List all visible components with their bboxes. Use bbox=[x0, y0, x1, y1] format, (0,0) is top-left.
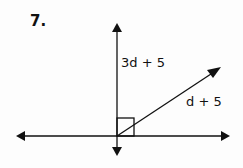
arrow-down-icon bbox=[112, 147, 122, 156]
arrow-diagonal-icon bbox=[207, 67, 221, 78]
arrow-up-icon bbox=[112, 23, 122, 32]
arrow-right-icon bbox=[221, 131, 230, 141]
angle-label-upper: 3d + 5 bbox=[121, 55, 165, 70]
angle-label-lower: d + 5 bbox=[186, 94, 222, 109]
diagram: 7. 3d + 5 d + 5 bbox=[0, 0, 243, 168]
problem-number: 7. bbox=[30, 12, 46, 30]
arrow-left-icon bbox=[16, 131, 25, 141]
